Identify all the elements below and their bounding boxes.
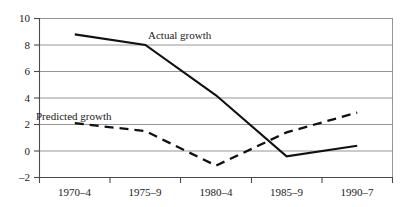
x-axis-tick-labels: 1970–4 1975–9 1980–4 1985–9 1990–7 [58,186,374,198]
y-axis-ticks [34,19,39,178]
y-tick-label-0: 0 [25,145,31,157]
x-tick-label-1975-9: 1975–9 [129,186,163,198]
x-tick-label-1970-4: 1970–4 [58,186,92,198]
annotation-predicted-growth: Predicted growth [36,110,112,122]
x-axis-ticks [40,178,393,184]
plot-area-background [39,18,393,177]
x-tick-label-1980-4: 1980–4 [200,186,234,198]
y-tick-label-6: 6 [25,65,31,77]
y-tick-label-neg2: –2 [18,171,30,183]
x-tick-label-1985-9: 1985–9 [270,186,304,198]
y-axis-tick-labels: 10 8 6 4 2 0 –2 [18,12,31,183]
y-tick-label-10: 10 [19,12,31,24]
y-tick-label-4: 4 [25,92,31,104]
x-tick-label-1990-7: 1990–7 [341,186,375,198]
growth-comparison-chart: 10 8 6 4 2 0 –2 1970–4 1975–9 1980–4 198… [0,0,412,207]
annotation-actual-growth: Actual growth [148,29,212,41]
y-tick-label-2: 2 [25,118,31,130]
y-tick-label-8: 8 [25,39,31,51]
chart-canvas: 10 8 6 4 2 0 –2 1970–4 1975–9 1980–4 198… [0,0,412,207]
